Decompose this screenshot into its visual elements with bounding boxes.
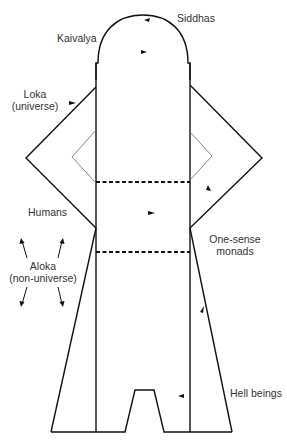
label-aloka: Aloka (non-universe) [9, 260, 77, 284]
pointer-marker-hell [178, 394, 184, 398]
pointer-marker-siddhas [144, 18, 150, 22]
label-one-sense-monads: One-sense monads [205, 233, 265, 257]
left-inner-wing [72, 130, 96, 183]
pointer-marker-loka [69, 101, 76, 105]
label-one-sense-line1: One-sense [205, 233, 265, 245]
label-kaivalya: Kaivalya [57, 32, 97, 44]
pointer-marker-kaivalya [141, 50, 147, 54]
label-one-sense-line2: monads [205, 245, 265, 257]
base-with-notch [51, 390, 232, 432]
right-inner-wing [190, 132, 212, 180]
label-aloka-line1: Aloka [9, 260, 77, 272]
pointer-marker-middle [148, 211, 155, 215]
label-loka-line1: Loka [11, 88, 59, 100]
pointer-marker-lower [200, 306, 204, 313]
label-humans: Humans [28, 206, 67, 218]
label-loka-line2: (universe) [11, 100, 59, 112]
left-lower-flare [51, 228, 96, 432]
label-loka: Loka (universe) [11, 88, 59, 112]
pointer-marker-one-sense [206, 185, 211, 191]
label-siddhas: Siddhas [177, 12, 215, 24]
label-hell-beings: Hell beings [230, 387, 282, 399]
kaivalya-dome [96, 15, 190, 80]
right-outer-wing [190, 85, 262, 228]
loka-diagram [0, 0, 287, 448]
label-aloka-line2: (non-universe) [9, 272, 77, 284]
right-lower-flare [190, 228, 232, 432]
